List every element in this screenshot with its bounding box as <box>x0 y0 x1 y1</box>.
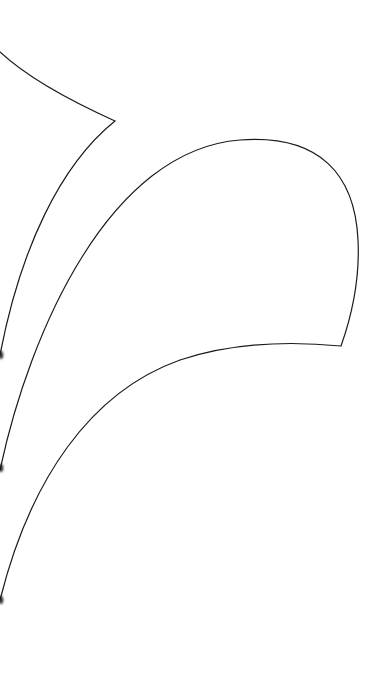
edge-marks-layer <box>0 351 3 604</box>
lower-loop-curve <box>0 139 358 600</box>
curve-paths-layer <box>0 52 358 600</box>
upper-cusp-curve <box>0 52 115 355</box>
diagram-canvas <box>0 0 387 681</box>
line-art-drawing <box>0 0 387 681</box>
